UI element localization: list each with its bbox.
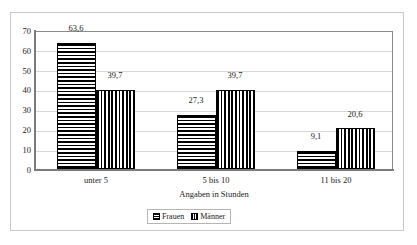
bar-group-unter-5 <box>57 30 157 169</box>
y-tick-60: 60 <box>5 47 31 56</box>
legend-label-frauen: Frauen <box>162 213 184 221</box>
y-tick-30: 30 <box>5 106 31 115</box>
x-axis-title: Angaben in Stunden <box>34 190 394 199</box>
x-axis-line <box>34 169 394 171</box>
x-tick-label-11-bis-20: 11 bis 20 <box>296 176 376 185</box>
bar-maenner-5-bis-10[interactable] <box>216 90 255 169</box>
chart-legend: Frauen Männer <box>147 209 231 224</box>
legend-entry-frauen[interactable]: Frauen <box>153 213 184 221</box>
data-label-frauen-11-bis-20: 9,1 <box>296 132 336 141</box>
y-tick-40: 40 <box>5 86 31 95</box>
legend-entry-maenner[interactable]: Männer <box>191 213 225 221</box>
legend-swatch-maenner-icon <box>191 213 198 220</box>
data-label-frauen-5-bis-10: 27,3 <box>176 96 216 105</box>
x-tick-label-unter-5: unter 5 <box>56 176 136 185</box>
bar-group-11-bis-20 <box>297 30 397 169</box>
x-tick-label-5-bis-10: 5 bis 10 <box>176 176 256 185</box>
y-tick-50: 50 <box>5 67 31 76</box>
legend-swatch-frauen-icon <box>153 213 160 220</box>
data-label-frauen-unter-5: 63,6 <box>56 24 96 33</box>
y-axis-line <box>34 30 36 171</box>
y-tick-0: 0 <box>5 166 31 175</box>
y-axis-tick-labels: 70 60 50 40 30 20 10 0 <box>0 0 31 245</box>
data-label-maenner-11-bis-20: 20,6 <box>335 110 375 119</box>
chart-figure: 70 60 50 40 30 20 10 0 63,6 39, <box>0 0 417 245</box>
legend-label-maenner: Männer <box>200 213 225 221</box>
y-tick-10: 10 <box>5 146 31 155</box>
bar-maenner-unter-5[interactable] <box>96 90 135 169</box>
bar-frauen-unter-5[interactable] <box>57 43 96 169</box>
bar-maenner-11-bis-20[interactable] <box>336 128 375 169</box>
data-label-maenner-unter-5: 39,7 <box>95 71 135 80</box>
y-tick-20: 20 <box>5 126 31 135</box>
bar-frauen-5-bis-10[interactable] <box>177 115 216 169</box>
y-tick-70: 70 <box>5 27 31 36</box>
bar-frauen-11-bis-20[interactable] <box>297 151 336 169</box>
data-label-maenner-5-bis-10: 39,7 <box>215 71 255 80</box>
